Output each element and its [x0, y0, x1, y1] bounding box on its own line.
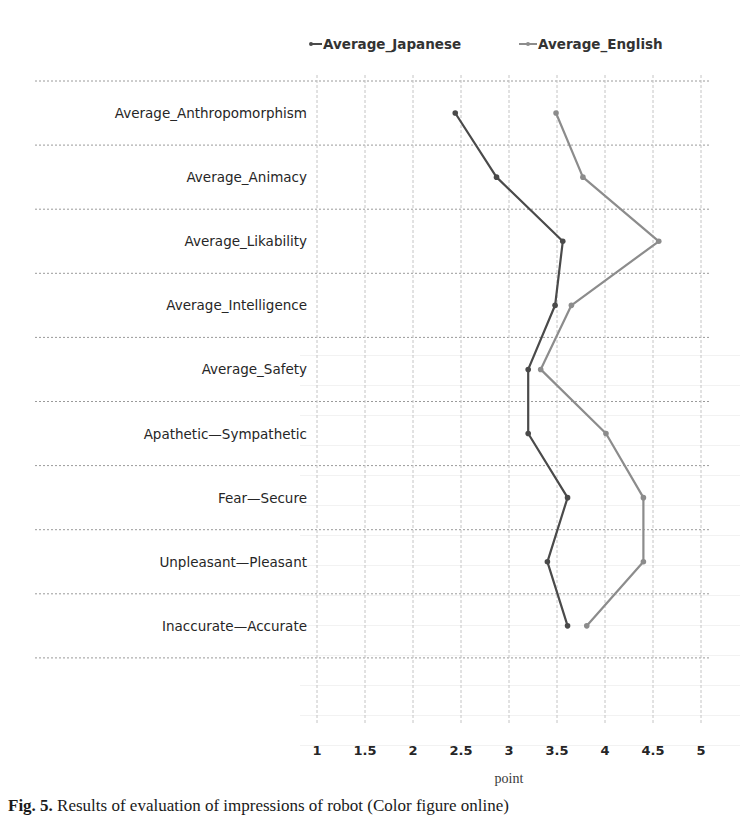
- x-tick-label: 4.5: [641, 743, 664, 758]
- impression-chart: Average_AnthropomorphismAverage_AnimacyA…: [0, 0, 748, 820]
- x-tick-label: 5: [696, 743, 705, 758]
- figure-caption: Fig. 5. Results of evaluation of impress…: [8, 796, 748, 816]
- category-label: Average_Animacy: [186, 169, 307, 185]
- category-label: Average_Likability: [185, 233, 307, 249]
- data-point-marker: [452, 110, 458, 116]
- data-point-marker: [565, 495, 571, 501]
- series-line: [455, 113, 567, 626]
- legend-item-japanese: Average_Japanese: [309, 36, 461, 53]
- legend-marker-english-icon: [526, 42, 530, 46]
- category-label: Apathetic—Sympathetic: [144, 426, 307, 442]
- data-point-marker: [525, 431, 531, 437]
- x-tick-label: 1.5: [353, 743, 376, 758]
- x-tick-label: 2.5: [449, 743, 472, 758]
- data-point-marker: [641, 495, 647, 501]
- data-point-marker: [494, 174, 500, 180]
- category-labels: Average_AnthropomorphismAverage_AnimacyA…: [115, 105, 307, 634]
- x-tick-label: 3.5: [545, 743, 568, 758]
- series-line: [541, 113, 659, 626]
- category-label: Fear—Secure: [218, 490, 307, 506]
- data-point-marker: [538, 367, 544, 373]
- data-point-marker: [552, 303, 558, 309]
- x-tick-label: 3: [504, 743, 513, 758]
- x-axis-title: point: [495, 771, 524, 786]
- x-axis-ticks: 11.522.533.544.55: [312, 743, 705, 758]
- x-tick-label: 2: [408, 743, 417, 758]
- x-tick-label: 4: [600, 743, 609, 758]
- figure-number: Fig. 5.: [8, 796, 53, 815]
- category-label: Unpleasant—Pleasant: [159, 554, 307, 570]
- data-point-marker: [545, 559, 551, 565]
- data-point-marker: [525, 367, 531, 373]
- legend-marker-japanese-icon: [309, 42, 313, 46]
- category-label: Average_Anthropomorphism: [115, 105, 307, 121]
- data-point-marker: [656, 238, 662, 244]
- background-bleed-text: [300, 355, 740, 746]
- chart-legend: Average_Japanese Average_English: [309, 36, 663, 53]
- data-point-marker: [580, 174, 586, 180]
- legend-label-english: Average_English: [538, 36, 663, 53]
- category-label: Average_Intelligence: [166, 297, 307, 313]
- data-point-marker: [553, 110, 559, 116]
- data-point-marker: [560, 238, 566, 244]
- data-point-marker: [584, 623, 590, 629]
- series-average-english: [538, 110, 662, 628]
- data-point-marker: [603, 431, 609, 437]
- data-point-marker: [641, 559, 647, 565]
- chart-grid: [35, 75, 709, 725]
- series-average-japanese: [452, 110, 570, 628]
- figure-caption-text: Results of evaluation of impressions of …: [53, 796, 509, 815]
- data-point-marker: [565, 623, 571, 629]
- category-label: Average_Safety: [202, 361, 307, 377]
- category-label: Inaccurate—Accurate: [162, 618, 307, 634]
- legend-item-english: Average_English: [519, 36, 663, 53]
- legend-label-japanese: Average_Japanese: [323, 36, 461, 53]
- x-tick-label: 1: [312, 743, 321, 758]
- data-point-marker: [569, 303, 575, 309]
